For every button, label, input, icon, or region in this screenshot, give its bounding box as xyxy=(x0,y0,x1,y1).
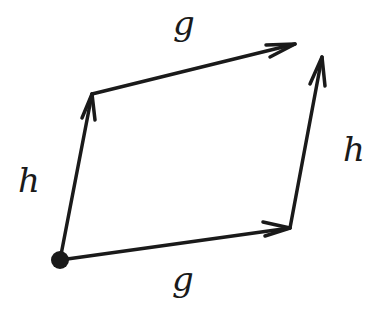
edge-right-h xyxy=(290,57,322,228)
label-bottom-g: g xyxy=(172,262,194,296)
edge-left-h xyxy=(60,94,92,260)
label-left-h: h xyxy=(18,163,40,197)
edge-bottom-g xyxy=(60,228,290,260)
edge-top-g xyxy=(92,44,295,94)
parallelogram-diagram: g h h g xyxy=(0,0,386,321)
label-top-g: g xyxy=(173,6,195,40)
label-right-h: h xyxy=(343,132,365,166)
origin-point-icon xyxy=(51,251,69,269)
